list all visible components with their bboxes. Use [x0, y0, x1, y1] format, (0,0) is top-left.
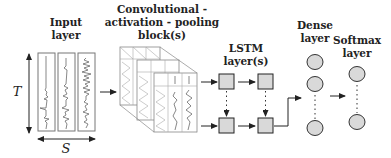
arrow-lstm-to-dense	[274, 98, 301, 126]
dense-layer: Dense layer	[297, 19, 333, 136]
lstm-layers: LSTM layer(s)	[219, 42, 273, 133]
conv-label-line1: Convolutional -	[117, 3, 207, 15]
architecture-diagram: Input layer T S Convolutional - activati…	[0, 0, 391, 158]
input-channel-1	[38, 53, 55, 131]
lstm-cell	[219, 118, 234, 133]
softmax-node	[349, 115, 365, 130]
dense-node	[307, 55, 323, 70]
conv-block: Convolutional - activation - pooling blo…	[105, 3, 220, 132]
dense-node	[307, 121, 323, 136]
softmax-label-line2: layer	[342, 47, 372, 59]
softmax-label-line1: Softmax	[333, 34, 382, 46]
conv-label-line2: activation - pooling	[105, 16, 220, 28]
conv-label-line3: block(s)	[138, 29, 186, 41]
conv-feature-map-front	[154, 73, 197, 132]
input-channel-2	[58, 53, 75, 131]
input-layer-label-line2: layer	[51, 29, 81, 41]
lstm-cell	[258, 118, 273, 133]
softmax-node	[349, 67, 365, 82]
dense-label-line1: Dense	[297, 19, 333, 31]
input-layer: Input layer T S	[13, 16, 95, 156]
dense-node	[307, 77, 323, 92]
lstm-cell	[258, 74, 273, 89]
dense-label-line2: layer	[300, 32, 330, 44]
time-axis-label: T	[13, 84, 23, 99]
lstm-cell	[219, 74, 234, 89]
lstm-label-line2: layer(s)	[224, 55, 269, 67]
lstm-label-line1: LSTM	[229, 42, 264, 54]
input-layer-label-line1: Input	[50, 16, 83, 28]
sensor-axis-label: S	[62, 141, 71, 156]
softmax-layer: Softmax layer	[333, 34, 382, 130]
